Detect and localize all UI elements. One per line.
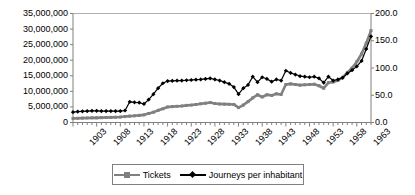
series-marker-tickets bbox=[204, 102, 207, 105]
series-marker-journeys-per-inhabitant bbox=[213, 77, 217, 81]
series-marker-journeys-per-inhabitant bbox=[288, 71, 292, 75]
series-marker-journeys-per-inhabitant bbox=[90, 109, 94, 113]
series-marker-journeys-per-inhabitant bbox=[76, 110, 80, 114]
series-marker-journeys-per-inhabitant bbox=[279, 78, 283, 82]
series-marker-journeys-per-inhabitant bbox=[199, 77, 203, 81]
series-marker-journeys-per-inhabitant bbox=[184, 78, 188, 82]
y-axis-right-tick-label: 150.0 bbox=[375, 36, 398, 45]
series-marker-journeys-per-inhabitant bbox=[293, 72, 297, 76]
y-axis-right-tick-label: 200.0 bbox=[375, 9, 398, 18]
y-axis-right-tick-label: 50.0 bbox=[375, 91, 393, 100]
series-marker-journeys-per-inhabitant bbox=[118, 109, 122, 113]
series-marker-tickets bbox=[256, 93, 259, 96]
series-marker-tickets bbox=[142, 113, 145, 116]
series-marker-journeys-per-inhabitant bbox=[71, 110, 75, 114]
series-marker-tickets bbox=[194, 103, 197, 106]
series-marker-tickets bbox=[176, 105, 179, 108]
y-axis-left-tick-label: 35,000,000 bbox=[23, 9, 68, 18]
series-marker-tickets bbox=[317, 84, 320, 87]
series-marker-journeys-per-inhabitant bbox=[218, 78, 222, 82]
series-marker-journeys-per-inhabitant bbox=[170, 79, 174, 83]
series-line-tickets bbox=[73, 31, 371, 119]
series-marker-tickets bbox=[133, 114, 136, 117]
series-marker-tickets bbox=[190, 104, 193, 107]
series-marker-journeys-per-inhabitant bbox=[284, 69, 288, 73]
series-marker-tickets bbox=[124, 115, 127, 118]
series-marker-tickets bbox=[270, 94, 273, 97]
series-marker-tickets bbox=[180, 104, 183, 107]
series-marker-tickets bbox=[76, 117, 79, 120]
series-marker-tickets bbox=[228, 103, 231, 106]
series-marker-tickets bbox=[313, 83, 316, 86]
legend-label-tickets: Tickets bbox=[143, 170, 171, 180]
series-marker-tickets bbox=[109, 116, 112, 119]
series-marker-journeys-per-inhabitant bbox=[104, 109, 108, 113]
series-marker-tickets bbox=[72, 117, 75, 120]
series-marker-journeys-per-inhabitant bbox=[113, 109, 117, 113]
series-marker-tickets bbox=[119, 116, 122, 119]
series-marker-tickets bbox=[327, 81, 330, 84]
series-marker-tickets bbox=[218, 102, 221, 105]
series-marker-journeys-per-inhabitant bbox=[109, 109, 113, 113]
series-marker-journeys-per-inhabitant bbox=[208, 76, 212, 80]
y-axis-left-tick-label: 25,000,000 bbox=[23, 40, 68, 49]
series-marker-tickets bbox=[294, 83, 297, 86]
series-marker-tickets bbox=[138, 114, 141, 117]
series-marker-journeys-per-inhabitant bbox=[180, 78, 184, 82]
series-marker-tickets bbox=[185, 104, 188, 107]
series-marker-tickets bbox=[275, 92, 278, 95]
series-line-journeys-per-inhabitant bbox=[73, 36, 371, 112]
chart-legend: Tickets Journeys per inhabitant bbox=[112, 164, 304, 185]
series-marker-journeys-per-inhabitant bbox=[203, 77, 207, 81]
legend-item-journeys-per-inhabitant: Journeys per inhabitant bbox=[180, 170, 303, 180]
series-marker-journeys-per-inhabitant bbox=[132, 100, 136, 104]
series-marker-tickets bbox=[247, 100, 250, 103]
y-axis-left-tick-label: 30,000,000 bbox=[23, 25, 68, 34]
series-marker-tickets bbox=[242, 104, 245, 107]
series-marker-journeys-per-inhabitant bbox=[175, 78, 179, 82]
series-marker-tickets bbox=[161, 107, 164, 110]
series-marker-tickets bbox=[322, 87, 325, 90]
y-axis-left-tick-label: 5,000,000 bbox=[28, 102, 68, 111]
series-marker-tickets bbox=[284, 83, 287, 86]
y-axis-left-tick-label: 10,000,000 bbox=[23, 87, 68, 96]
series-marker-tickets bbox=[199, 102, 202, 105]
series-marker-tickets bbox=[232, 103, 235, 106]
series-marker-tickets bbox=[280, 93, 283, 96]
y-axis-left-tick-label: 0 bbox=[63, 118, 68, 127]
series-marker-tickets bbox=[95, 116, 98, 119]
series-marker-tickets bbox=[265, 93, 268, 96]
series-marker-tickets bbox=[114, 116, 117, 119]
series-marker-tickets bbox=[157, 109, 160, 112]
series-marker-journeys-per-inhabitant bbox=[303, 75, 307, 79]
series-marker-tickets bbox=[209, 101, 212, 104]
series-marker-journeys-per-inhabitant bbox=[99, 109, 103, 113]
series-marker-tickets bbox=[251, 96, 254, 99]
series-marker-tickets bbox=[90, 116, 93, 119]
series-marker-tickets bbox=[365, 42, 368, 45]
series-marker-journeys-per-inhabitant bbox=[274, 77, 278, 81]
y-axis-left-tick-label: 20,000,000 bbox=[23, 56, 68, 65]
series-marker-tickets bbox=[171, 105, 174, 108]
chart-figure: Tickets Journeys per inhabitant 05,000,0… bbox=[0, 0, 415, 195]
y-axis-right-tick-label: 100.0 bbox=[375, 64, 398, 73]
series-marker-journeys-per-inhabitant bbox=[137, 101, 141, 105]
series-marker-tickets bbox=[100, 116, 103, 119]
series-marker-journeys-per-inhabitant bbox=[298, 74, 302, 78]
series-marker-journeys-per-inhabitant bbox=[189, 78, 193, 82]
series-marker-tickets bbox=[81, 117, 84, 120]
series-marker-tickets bbox=[105, 116, 108, 119]
series-marker-tickets bbox=[147, 112, 150, 115]
series-marker-tickets bbox=[152, 111, 155, 114]
series-marker-journeys-per-inhabitant bbox=[80, 109, 84, 113]
series-marker-tickets bbox=[86, 116, 89, 119]
series-marker-journeys-per-inhabitant bbox=[312, 75, 316, 79]
series-marker-tickets bbox=[289, 82, 292, 85]
series-marker-tickets bbox=[128, 115, 131, 118]
legend-item-tickets: Tickets bbox=[114, 170, 171, 180]
series-marker-journeys-per-inhabitant bbox=[307, 75, 311, 79]
series-marker-journeys-per-inhabitant bbox=[166, 79, 170, 83]
series-marker-tickets bbox=[223, 103, 226, 106]
series-marker-tickets bbox=[213, 102, 216, 105]
series-marker-tickets bbox=[355, 60, 358, 63]
